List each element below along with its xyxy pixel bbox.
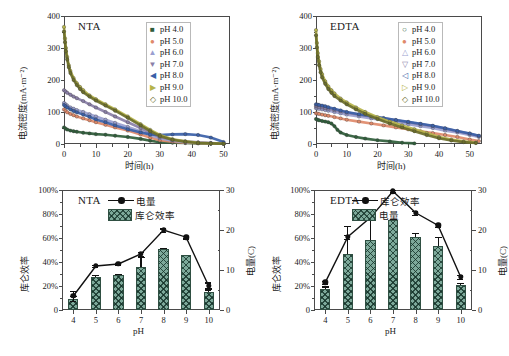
line-error-cap — [70, 301, 76, 302]
legend-marker-icon: ● — [148, 36, 157, 48]
legend-item-line: 库仑效率 — [352, 194, 420, 207]
legend-bar-swatch-icon — [352, 209, 376, 221]
legend-marker-icon: ▶ — [148, 82, 157, 94]
legend-label: 电量 — [379, 208, 399, 222]
legend-marker-icon: ▲ — [148, 47, 157, 59]
legend-marker-icon: ■ — [148, 24, 157, 36]
legend-panel-d-edta-coulombic-charge: 库仑效率电量 — [352, 194, 420, 222]
legend-item: ▲pH 6.0 — [148, 47, 187, 59]
legend-label: pH 10.0 — [160, 94, 187, 106]
legend-label: pH 7.0 — [160, 59, 183, 71]
legend-line-marker-icon — [108, 194, 134, 207]
legend-item: ▶pH 9.0 — [148, 82, 187, 94]
legend-label: pH 6.0 — [412, 47, 435, 59]
series-layer — [0, 0, 252, 178]
legend-label: pH 10.0 — [412, 94, 439, 106]
panel-panel-d-edta-coulombic-charge: 020%40%60%80%100%010203045678910pH库仑效率电量… — [252, 178, 504, 356]
line-error-cap — [205, 290, 211, 291]
legend-label: pH 4.0 — [412, 24, 435, 36]
legend-marker-icon: ◇ — [148, 94, 157, 106]
panel-panel-b-edta-current-density: 010020030040001020304050时间(h)电流密度(mA·m⁻²… — [252, 0, 504, 178]
legend-item: △pH 6.0 — [400, 47, 439, 59]
legend-item: ■pH 4.0 — [148, 24, 187, 36]
legend-marker-icon: ◁ — [400, 70, 409, 82]
legend-item-line: 电量 — [108, 194, 175, 207]
legend-label: pH 9.0 — [160, 82, 183, 94]
legend-bar-swatch-icon — [108, 209, 132, 221]
series-layer — [252, 0, 504, 178]
legend-label: pH 5.0 — [160, 36, 183, 48]
legend-label: pH 9.0 — [412, 82, 435, 94]
legend-item: ○pH 4.0 — [400, 24, 439, 36]
legend-item: ▼pH 7.0 — [148, 59, 187, 71]
legend-item: ▷pH 9.0 — [400, 82, 439, 94]
legend-item-bar: 库仑效率 — [108, 208, 175, 221]
legend-item: ●pH 5.0 — [400, 36, 439, 48]
legend-panel-a-nta-current-density: ■pH 4.0●pH 5.0▲pH 6.0▼pH 7.0◀pH 8.0▶pH 9… — [146, 22, 191, 107]
legend-panel-c-nta-coulombic-charge: 电量库仑效率 — [108, 194, 175, 222]
legend-label: 库仑效率 — [380, 194, 420, 208]
legend-panel-b-edta-current-density: ○pH 4.0●pH 5.0△pH 6.0▽pH 7.0◁pH 8.0▷pH 9… — [398, 22, 443, 107]
legend-item: ◇pH 10.0 — [400, 94, 439, 106]
panel-panel-a-nta-current-density: 010020030040001020304050时间(h)电流密度(mA·m⁻²… — [0, 0, 252, 178]
legend-marker-icon: ○ — [400, 24, 409, 36]
legend-marker-icon: ◀ — [148, 70, 157, 82]
series-pH80 — [62, 103, 225, 144]
legend-item: ◀pH 8.0 — [148, 70, 187, 82]
legend-marker-icon: ● — [400, 36, 409, 48]
legend-label: pH 4.0 — [160, 24, 183, 36]
legend-label: pH 5.0 — [412, 36, 435, 48]
legend-marker-icon: ▽ — [400, 59, 409, 71]
line-error-cap — [70, 291, 76, 292]
legend-marker-icon: ▷ — [400, 82, 409, 94]
series-pH100 — [62, 30, 225, 146]
legend-item: ▽pH 7.0 — [400, 59, 439, 71]
legend-label: 电量 — [136, 194, 156, 208]
legend-marker-icon: △ — [400, 47, 409, 59]
legend-marker-icon: ▼ — [148, 59, 157, 71]
legend-marker-icon: ◇ — [400, 94, 409, 106]
legend-label: 库仑效率 — [135, 208, 175, 222]
legend-label: pH 8.0 — [160, 70, 183, 82]
panel-panel-c-nta-coulombic-charge: 020%40%60%80%100%010203045678910pH库仑效率电量… — [0, 178, 252, 356]
legend-item: ◇pH 10.0 — [148, 94, 187, 106]
legend-item: ●pH 5.0 — [148, 36, 187, 48]
legend-item-bar: 电量 — [352, 208, 420, 221]
legend-label: pH 7.0 — [412, 59, 435, 71]
legend-label: pH 6.0 — [160, 47, 183, 59]
legend-line-marker-icon — [352, 194, 378, 207]
legend-item: ◁pH 8.0 — [400, 70, 439, 82]
legend-label: pH 8.0 — [412, 70, 435, 82]
